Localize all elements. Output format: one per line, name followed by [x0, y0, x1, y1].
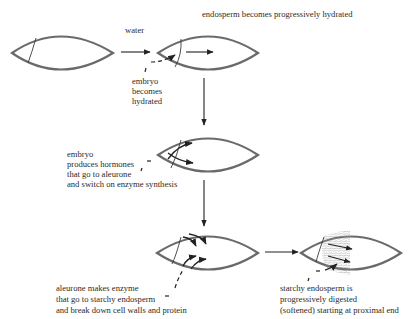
note-digestion: starchy endosperm is progressively diges…: [280, 283, 400, 315]
pointer-tick: [308, 278, 309, 281]
pointer-tick: [141, 168, 142, 171]
seed-hormones: [158, 139, 258, 172]
water-label: water: [125, 25, 144, 35]
seed-hydrating: [158, 37, 258, 70]
note-aleurone: aleurone makes enzyme that go to starchy…: [56, 283, 187, 315]
pointer-aleurone: [175, 270, 183, 288]
germination-diagram: water endosperm becomes progressively hy…: [0, 0, 415, 319]
digested-region-hatch: [322, 231, 350, 275]
seed-enzymes: [157, 234, 258, 270]
pointer-tick: [145, 68, 146, 72]
seed-digested: [301, 231, 401, 275]
hydration-caption: endosperm becomes progressively hydrated: [202, 9, 353, 19]
note-embryo-hydrated: embryo becomes hydrated: [132, 76, 164, 106]
seed-dry: [12, 37, 113, 70]
